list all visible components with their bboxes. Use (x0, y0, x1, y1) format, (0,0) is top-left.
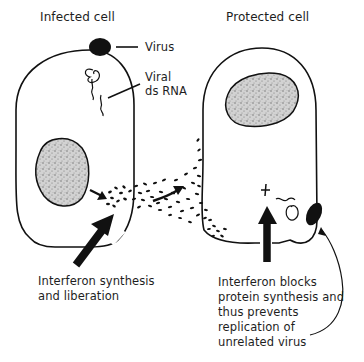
protected-cell-title: Protected cell (226, 10, 309, 25)
infected-cell (16, 38, 140, 247)
virus-particle-icon (89, 38, 111, 56)
block-caption-line3: thus prevents (218, 305, 299, 320)
synthesis-big-arrow-icon (76, 214, 114, 265)
diffusion-arrow-icon (153, 186, 184, 201)
diagram-artwork (0, 0, 364, 362)
synthesis-caption-line2: and liberation (38, 289, 119, 304)
infected-cell-title: Infected cell (40, 10, 115, 25)
protected-cell-nucleus (226, 73, 299, 126)
synthesis-caption-line1: Interferon synthesis (38, 274, 155, 289)
viral-rna-leader-line (108, 84, 140, 98)
interferon-block-arrow-icon (258, 206, 277, 262)
block-caption-line1: Interferon blocks (218, 275, 317, 290)
release-arrow-icon (90, 190, 107, 200)
viral-dsrna-icon (85, 69, 103, 116)
infected-cell-nucleus (36, 139, 89, 206)
caption-pointer-arrowhead-icon (318, 227, 326, 236)
viral-rna-label-line1: Viral (145, 70, 171, 85)
viral-rna-label-line2: ds RNA (145, 84, 187, 99)
interferon-particles (106, 138, 227, 238)
unrelated-virus-icon (303, 200, 326, 228)
virus-label: Virus (145, 40, 174, 55)
block-caption-line2: protein synthesis and (218, 290, 344, 305)
unrelated-viral-rna-icon (276, 198, 298, 220)
block-caption-line5: unrelated virus (218, 335, 306, 350)
interferon-diagram: Infected cell Protected cell Virus Viral… (0, 0, 364, 362)
block-caption-line4: replication of (218, 320, 295, 335)
